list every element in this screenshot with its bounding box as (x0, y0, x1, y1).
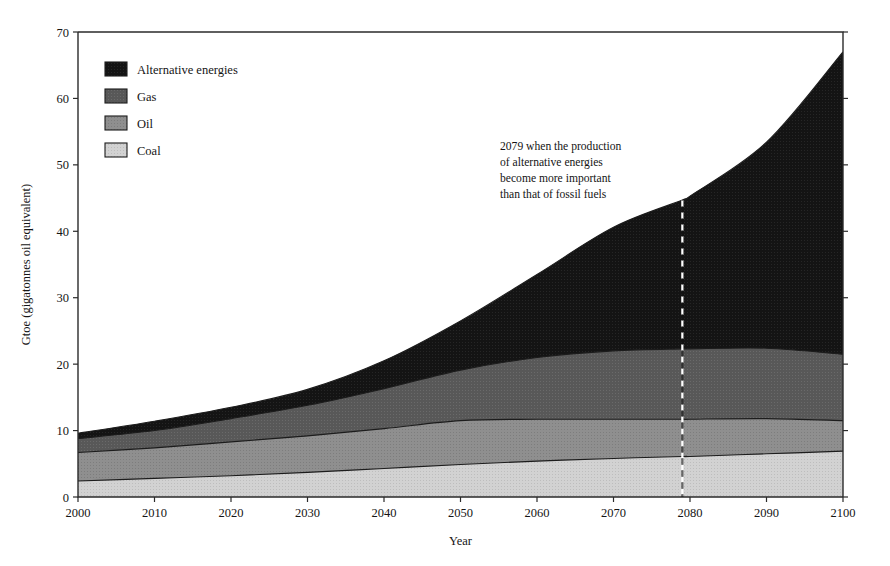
x-tick-label: 2000 (66, 506, 91, 520)
y-tick-label: 60 (57, 92, 70, 106)
legend-label: Alternative energies (137, 63, 238, 77)
annotation-line: become more important (500, 172, 612, 185)
legend-label: Gas (137, 90, 157, 104)
x-tick-label: 2100 (831, 506, 856, 520)
energy-projection-chart: 0102030405060702000201020202030204020502… (0, 0, 890, 566)
legend-label: Oil (137, 117, 154, 131)
stacked-area-chart-figure: 0102030405060702000201020202030204020502… (0, 0, 890, 566)
x-tick-label: 2090 (754, 506, 779, 520)
legend-swatch (105, 89, 127, 103)
y-tick-label: 50 (57, 158, 70, 172)
x-tick-label: 2060 (525, 506, 550, 520)
legend-swatch (105, 62, 127, 76)
x-tick-label: 2050 (448, 506, 473, 520)
x-tick-label: 2030 (295, 506, 320, 520)
y-tick-label: 40 (57, 225, 70, 239)
legend-group: Alternative energiesGasOilCoal (105, 62, 238, 158)
x-tick-label: 2020 (219, 506, 244, 520)
annotation-line: of alternative energies (500, 156, 603, 169)
x-tick-label: 2040 (372, 506, 397, 520)
legend-label: Coal (137, 144, 161, 158)
x-tick-label: 2070 (601, 506, 626, 520)
y-tick-label: 20 (57, 358, 70, 372)
y-tick-label: 10 (57, 424, 70, 438)
y-tick-label: 70 (57, 26, 70, 40)
y-tick-label: 30 (57, 291, 70, 305)
x-tick-label: 2080 (678, 506, 703, 520)
stacked-bands-group (78, 52, 843, 497)
annotation-line: 2079 when the production (500, 140, 622, 153)
x-tick-label: 2010 (142, 506, 167, 520)
annotation-line: than that of fossil fuels (500, 188, 607, 201)
x-axis-title: Year (449, 534, 473, 548)
y-tick-label: 0 (63, 491, 69, 505)
legend-swatch (105, 116, 127, 130)
y-axis-title: Gtoe (gigatonnes oil equivalent) (19, 184, 33, 345)
legend-swatch (105, 143, 127, 157)
